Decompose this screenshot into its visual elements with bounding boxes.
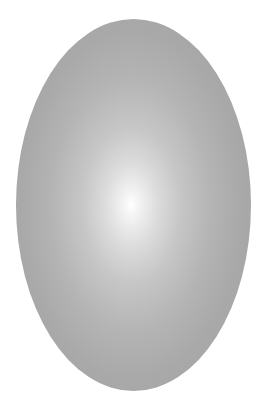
- gradient-ellipse: [16, 19, 251, 391]
- canvas: [0, 0, 273, 412]
